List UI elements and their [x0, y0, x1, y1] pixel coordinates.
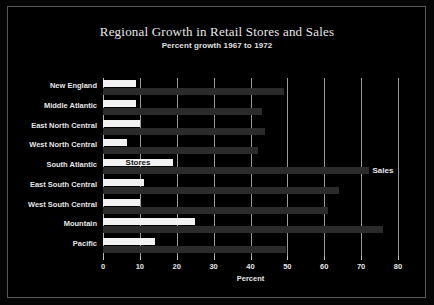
x-tick-mark: [103, 256, 104, 260]
x-tick-label: 20: [173, 262, 181, 271]
category-label: South Atlantic: [1, 160, 97, 169]
bar-stores: [103, 80, 136, 87]
x-tick-label: 10: [136, 262, 144, 271]
category-label: West South Central: [1, 200, 97, 209]
x-tick-mark: [287, 256, 288, 260]
bar-sales: [103, 108, 262, 115]
x-tick-label: 70: [357, 262, 365, 271]
x-tick-label: 0: [101, 262, 105, 271]
bar-sales: [103, 88, 284, 95]
x-tick-mark: [398, 256, 399, 260]
series-label-sales: Sales: [373, 166, 394, 175]
x-tick-mark: [140, 256, 141, 260]
x-tick-label: 80: [394, 262, 402, 271]
series-label-stores: Stores: [126, 158, 151, 167]
x-tick-label: 30: [209, 262, 217, 271]
bar-stores: [103, 120, 140, 127]
x-tick-label: 60: [320, 262, 328, 271]
bar-stores: [103, 179, 144, 186]
category-label: Mountain: [1, 219, 97, 228]
bar-stores: [103, 238, 155, 245]
bar-sales: [103, 147, 258, 154]
x-tick-mark: [361, 256, 362, 260]
bar-stores: [103, 100, 136, 107]
bar-sales: [103, 187, 339, 194]
bar-sales: [103, 167, 369, 174]
x-tick-label: 40: [246, 262, 254, 271]
x-tick-mark: [214, 256, 215, 260]
x-tick-mark: [324, 256, 325, 260]
bar-sales: [103, 246, 286, 253]
chart-figure: Regional Growth in Retail Stores and Sal…: [0, 0, 434, 305]
bar-stores: [103, 139, 127, 146]
category-label: East North Central: [1, 121, 97, 130]
x-tick-mark: [251, 256, 252, 260]
chart-subtitle: Percent growth 1967 to 1972: [0, 41, 434, 50]
bar-sales: [103, 207, 328, 214]
x-tick-mark: [177, 256, 178, 260]
bar-sales: [103, 128, 265, 135]
plot-area: StoresSales New EnglandMiddle AtlanticEa…: [103, 78, 398, 256]
bar-stores: [103, 218, 195, 225]
category-label: New England: [1, 81, 97, 90]
category-label: Middle Atlantic: [1, 101, 97, 110]
category-label: West North Central: [1, 140, 97, 149]
bar-sales: [103, 226, 383, 233]
chart-title: Regional Growth in Retail Stores and Sal…: [0, 24, 434, 40]
bar-stores: [103, 199, 140, 206]
x-axis-title: Percent: [103, 274, 398, 283]
category-label: East South Central: [1, 180, 97, 189]
gridline: [398, 78, 399, 256]
x-tick-label: 50: [283, 262, 291, 271]
category-label: Pacific: [1, 239, 97, 248]
